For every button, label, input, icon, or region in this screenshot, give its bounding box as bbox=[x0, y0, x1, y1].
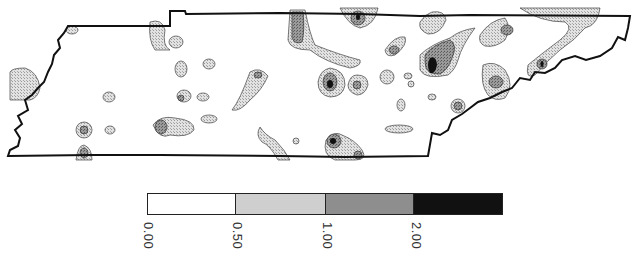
legend-label-0: 0.00 bbox=[141, 222, 156, 249]
legend-box-3 bbox=[413, 193, 503, 215]
legend-scale bbox=[148, 193, 504, 215]
legend-label-1: 0.50 bbox=[230, 222, 245, 249]
legend-label-3: 2.00 bbox=[409, 222, 424, 249]
legend-box-2 bbox=[325, 193, 415, 215]
tennessee-contour-map bbox=[0, 0, 638, 175]
legend-label-2: 1.00 bbox=[320, 222, 335, 249]
legend-box-0 bbox=[147, 193, 237, 215]
legend-box-1 bbox=[235, 193, 326, 215]
